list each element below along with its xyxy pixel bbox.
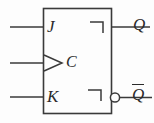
clock-dynamic-triangle-icon — [44, 55, 62, 71]
logic-symbol-canvas — [0, 0, 154, 123]
output-label-qbar-text: Q — [132, 84, 144, 103]
input-label-c: C — [66, 54, 77, 70]
input-label-k: K — [47, 88, 58, 105]
postponed-output-hook-icon-qbar — [88, 90, 101, 101]
input-label-j: J — [47, 18, 55, 35]
jk-flip-flop-diagram: J C K Q Q — [0, 0, 154, 123]
postponed-output-hook-icon-q — [90, 22, 103, 33]
output-label-q: Q — [133, 16, 145, 33]
output-label-qbar: Q — [132, 84, 144, 103]
inversion-bubble-icon-qbar — [110, 93, 119, 102]
